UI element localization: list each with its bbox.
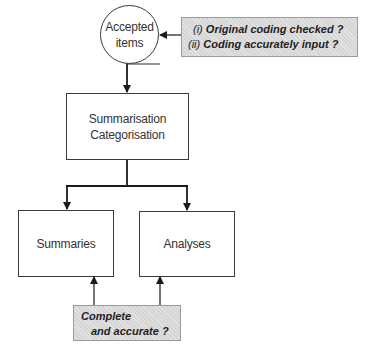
accepted-items-line2: items — [105, 35, 153, 51]
analyses-node: Analyses — [139, 211, 235, 277]
output-check-note: Complete and accurate ? — [73, 305, 181, 341]
input-check-item-1: (i) Original coding checked ? — [188, 22, 357, 37]
summarisation-categorisation-node: Summarisation Categorisation — [66, 93, 189, 160]
summaries-label: Summaries — [37, 236, 96, 252]
summaries-node: Summaries — [18, 210, 114, 277]
output-check-line2: and accurate ? — [81, 324, 180, 339]
accepted-items-node: Accepted items — [100, 5, 159, 64]
summarisation-label: Summarisation — [89, 111, 166, 127]
input-check-note: (i) Original coding checked ? (ii) Codin… — [181, 17, 358, 57]
flow-diagram: Accepted items (i) Original coding check… — [0, 0, 367, 355]
output-check-line1: Complete — [81, 309, 180, 324]
categorisation-label: Categorisation — [89, 127, 166, 143]
input-check-item-2: (ii) Coding accurately input ? — [188, 37, 357, 52]
analyses-label: Analyses — [163, 236, 210, 252]
accepted-items-line1: Accepted — [105, 19, 153, 35]
